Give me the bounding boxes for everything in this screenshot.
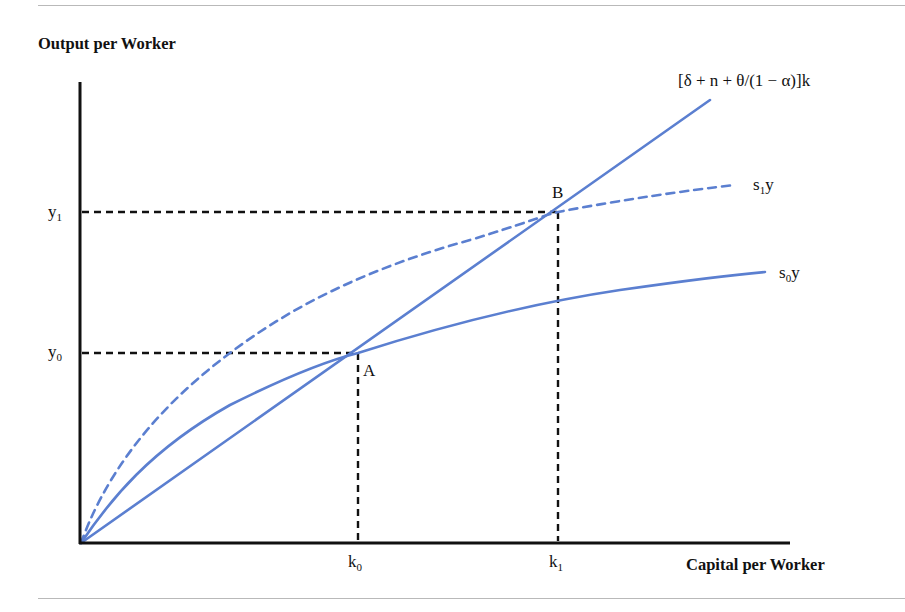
k1-tick-label: k1 bbox=[549, 553, 563, 573]
y1-tick-label: y1 bbox=[48, 203, 62, 223]
solow-diagram bbox=[0, 0, 905, 612]
point-A-label: A bbox=[363, 362, 375, 379]
s0y-label: s0y bbox=[779, 264, 800, 284]
y0-tick-label: y0 bbox=[48, 343, 62, 363]
depreciation-line bbox=[81, 100, 710, 543]
s1y-curve bbox=[81, 185, 735, 543]
s0y-curve bbox=[81, 272, 765, 543]
point-B-label: B bbox=[552, 184, 563, 201]
depreciation-line-label: [δ + n + θ/(1 − α)]k bbox=[678, 72, 810, 89]
k0-tick-label: k0 bbox=[348, 553, 362, 573]
s1y-label: s1y bbox=[753, 176, 774, 196]
